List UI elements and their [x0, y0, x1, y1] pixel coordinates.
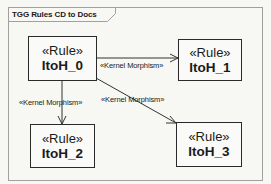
- rule-name: ItoH_0: [42, 58, 83, 74]
- rule-name: ItoH_3: [188, 144, 229, 160]
- rule-name: ItoH_2: [42, 146, 83, 162]
- rule-stereotype: «Rule»: [42, 131, 83, 146]
- rule-box-itoh-1[interactable]: «Rule» ItoH_1: [178, 39, 242, 81]
- rule-stereotype: «Rule»: [188, 129, 229, 144]
- edge-label-itoh0-itoh3: «Kernel Morphism»: [101, 95, 164, 104]
- tgg-rules-diagram: TGG Rules CD to Docs «Rule» ItoH_0 «Rule…: [0, 0, 271, 184]
- rule-stereotype: «Rule»: [189, 45, 230, 60]
- frame-title: TGG Rules CD to Docs: [12, 10, 97, 19]
- edge-label-itoh0-itoh2: «Kernel Morphism»: [19, 98, 82, 107]
- rule-box-itoh-0[interactable]: «Rule» ItoH_0: [28, 36, 97, 81]
- open-arrowhead-icon: [166, 116, 176, 123]
- edge-label-itoh0-itoh1: «Kernel Morphism»: [100, 61, 163, 70]
- rule-stereotype: «Rule»: [42, 43, 83, 58]
- rule-box-itoh-3[interactable]: «Rule» ItoH_3: [176, 122, 242, 167]
- rule-name: ItoH_1: [189, 60, 230, 76]
- rule-box-itoh-2[interactable]: «Rule» ItoH_2: [30, 124, 95, 168]
